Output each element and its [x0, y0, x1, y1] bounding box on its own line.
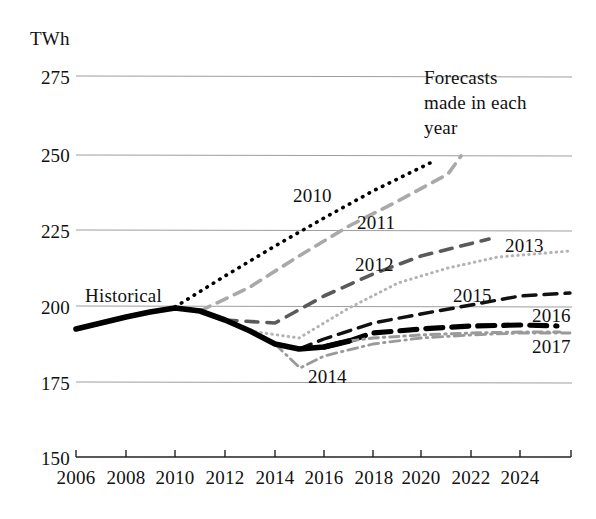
forecast-note-line-1: Forecasts: [424, 66, 498, 89]
series-label-2011: 2011: [357, 213, 395, 232]
x-axis: [76, 450, 571, 457]
series-path-2011: [200, 156, 461, 311]
gridlines: [76, 76, 572, 383]
forecast-note-line-2: made in each: [424, 91, 527, 114]
series-label-2017: 2017: [532, 337, 571, 356]
forecast-note-line-3: year: [424, 116, 458, 139]
plot-area: [0, 0, 596, 519]
series-path-historical: [76, 308, 349, 349]
series-label-2012: 2012: [355, 255, 394, 274]
series-label-historical: Historical: [85, 286, 162, 305]
series-path-2014: [275, 333, 570, 368]
series-label-2010: 2010: [293, 186, 332, 205]
chart-container: TWh 275 250 225 200 175 150 2006 2008 20…: [0, 0, 596, 519]
series-label-2016: 2016: [532, 306, 571, 325]
series-label-2013: 2013: [505, 236, 544, 255]
series-label-2014: 2014: [308, 367, 347, 386]
series-label-2015: 2015: [453, 286, 492, 305]
